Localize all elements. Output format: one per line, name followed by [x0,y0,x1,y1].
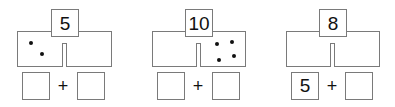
answer-box-left[interactable]: 5 [291,72,319,100]
divider-bar [196,43,201,67]
total-number-box: 10 [185,9,213,37]
answer-box-right[interactable] [345,72,373,100]
dot [232,54,236,58]
divider-bar [330,43,335,67]
dot [230,40,234,44]
answer-box-right[interactable] [212,72,240,100]
answer-box-left[interactable] [157,72,185,100]
plus-sign: + [325,76,339,96]
number-bond-panel-3: 8 5 + [0,0,130,107]
dot [217,58,221,62]
plus-sign: + [191,76,205,96]
dot [215,42,219,46]
total-number-box: 8 [319,9,347,37]
